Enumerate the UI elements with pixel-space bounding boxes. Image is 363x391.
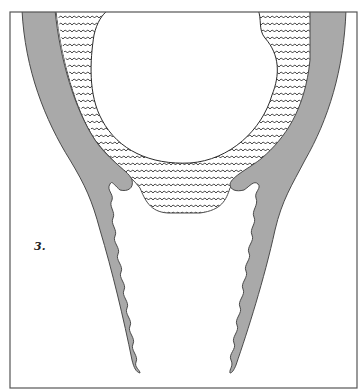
anatomical-diagram [0,0,363,391]
figure-label: 3. [34,240,45,253]
